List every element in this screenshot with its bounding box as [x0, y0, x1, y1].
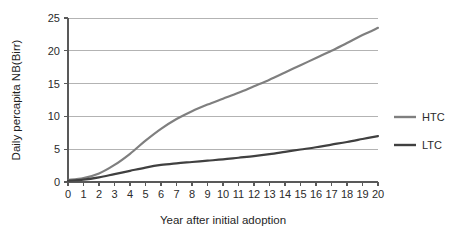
- x-axis-tick-label: 7: [173, 188, 179, 200]
- x-axis-tick-label: 20: [372, 188, 384, 200]
- x-axis-tick-label: 2: [96, 188, 102, 200]
- y-axis-tick-label: 10: [48, 110, 60, 122]
- x-axis-tick-label: 14: [279, 188, 291, 200]
- x-axis-tick-label: 4: [127, 188, 133, 200]
- legend-label-htc[interactable]: HTC: [422, 111, 445, 123]
- x-axis-tick-label: 10: [217, 188, 229, 200]
- chart-figure: 0510152025 01234567891011121314151617181…: [0, 0, 456, 240]
- x-axis-tick-label: 6: [158, 188, 164, 200]
- x-axis-tick-label: 18: [341, 188, 353, 200]
- x-axis-tick-label: 1: [80, 188, 86, 200]
- y-axis-title: Daily percapita NB(Birr): [10, 39, 22, 160]
- x-axis-tick-label: 19: [356, 188, 368, 200]
- x-axis-title: Year after initial adoption: [160, 214, 286, 226]
- x-axis-tick-label: 3: [111, 188, 117, 200]
- line-chart: 0510152025 01234567891011121314151617181…: [0, 0, 456, 240]
- x-axis-tick-label: 16: [310, 188, 322, 200]
- x-axis-tick-label: 12: [248, 188, 260, 200]
- x-axis-tick-label: 8: [189, 188, 195, 200]
- y-axis-tick-label: 5: [54, 143, 60, 155]
- x-axis-tick-label: 9: [204, 188, 210, 200]
- x-axis-tick-label: 5: [142, 188, 148, 200]
- x-axis-tick-label: 0: [65, 188, 71, 200]
- y-axis-tick-label: 20: [48, 45, 60, 57]
- legend-label-ltc[interactable]: LTC: [422, 139, 442, 151]
- y-axis-tick-label: 15: [48, 78, 60, 90]
- x-axis-tick-label: 13: [263, 188, 275, 200]
- y-axis-tick-label: 0: [54, 176, 60, 188]
- x-axis-tick-label: 11: [233, 188, 244, 200]
- x-axis-tick-label: 15: [294, 188, 306, 200]
- x-axis-tick-label: 17: [325, 188, 337, 200]
- y-axis-tick-label: 25: [48, 12, 60, 24]
